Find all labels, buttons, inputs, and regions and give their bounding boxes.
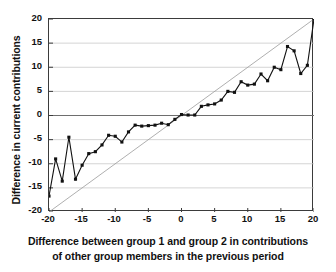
y-tick-label-neg15: -15 <box>0 181 42 191</box>
x-axis-title-line2: of other group members in the previous p… <box>0 249 336 264</box>
x-tick-label-10: 10 <box>232 214 262 224</box>
y-tick-label-neg5: -5 <box>0 133 42 143</box>
y-tick-label-0: 0 <box>0 109 42 119</box>
x-tick-label-15: 15 <box>265 214 295 224</box>
x-tick-label-neg5: -5 <box>132 214 162 224</box>
x-tick-label-5: 5 <box>199 214 229 224</box>
x-tick-label-neg15: -15 <box>66 214 96 224</box>
plot-area <box>48 18 313 211</box>
x-tick-marks <box>49 208 314 212</box>
x-axis-title: Difference between group 1 and group 2 i… <box>0 234 336 264</box>
y-tick-label-20: 20 <box>0 13 42 23</box>
y-tick-label-10: 10 <box>0 61 42 71</box>
chart-canvas <box>49 19 314 212</box>
data-point-markers <box>49 19 314 198</box>
x-tick-label-0: 0 <box>166 214 196 224</box>
chart-figure: Difference in current contributions 20 1… <box>0 0 336 272</box>
y-tick-label-neg10: -10 <box>0 157 42 167</box>
x-axis-title-line1: Difference between group 1 and group 2 i… <box>0 234 336 249</box>
x-tick-label-neg10: -10 <box>99 214 129 224</box>
y-tick-label-15: 15 <box>0 37 42 47</box>
x-tick-label-neg20: -20 <box>33 214 63 224</box>
y-tick-label-5: 5 <box>0 85 42 95</box>
data-line <box>49 19 314 196</box>
x-tick-label-20: 20 <box>298 214 328 224</box>
